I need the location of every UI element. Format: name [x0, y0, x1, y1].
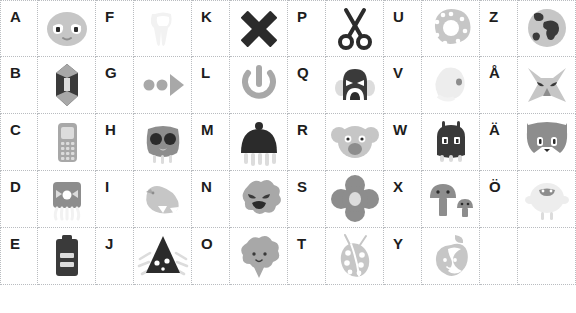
icon-cell-v	[422, 57, 480, 114]
letter-label: G	[96, 57, 117, 80]
beetle-icon	[424, 115, 478, 169]
letter-cell-p: P	[288, 0, 326, 57]
letter-cell-g: G	[96, 57, 134, 114]
letter-cell-n: N	[192, 171, 230, 228]
icon-cell-p	[326, 0, 384, 57]
letter-cell-r: R	[288, 114, 326, 171]
letter-cell-d: D	[0, 171, 38, 228]
letter-label: D	[1, 171, 21, 194]
icon-cell-h	[134, 114, 192, 171]
letter-cell-f: F	[96, 0, 134, 57]
letter-cell-l: L	[192, 57, 230, 114]
letter-label: F	[96, 1, 114, 24]
letter-label: C	[1, 114, 21, 137]
icon-cell-ä	[518, 114, 576, 171]
letter-cell-z: Z	[480, 0, 518, 57]
cross-x-icon	[232, 2, 286, 56]
cone-creature-icon	[136, 229, 190, 283]
icon-cell-t	[326, 228, 384, 285]
letter-label: P	[288, 1, 307, 24]
alphabet-chart: AFKPUZBGLQVÅCHMRWÄDINSXÖEJOTY	[0, 0, 576, 313]
letter-cell-s: S	[288, 171, 326, 228]
icon-cell-empty	[518, 228, 576, 285]
icon-cell-z	[518, 0, 576, 57]
alien-face-icon	[40, 2, 94, 56]
letter-label: M	[192, 114, 214, 137]
letter-label: Q	[288, 57, 309, 80]
letter-label: E	[1, 228, 20, 251]
cat-head-icon	[520, 115, 574, 169]
letter-label: A	[1, 1, 21, 24]
letter-label: R	[288, 114, 308, 137]
letter-label: X	[384, 171, 403, 194]
letter-cell-j: J	[96, 228, 134, 285]
battery-icon	[40, 229, 94, 283]
icon-cell-a	[38, 0, 96, 57]
icon-cell-k	[230, 0, 288, 57]
icon-cell-m	[230, 114, 288, 171]
icon-cell-r	[326, 114, 384, 171]
icon-cell-c	[38, 114, 96, 171]
letter-label: T	[288, 228, 306, 251]
letter-cell-q: Q	[288, 57, 326, 114]
scissors-icon	[328, 2, 382, 56]
letter-cell-e: E	[0, 228, 38, 285]
broccoli-icon	[232, 229, 286, 283]
donut-icon	[424, 2, 478, 56]
icon-cell-s	[326, 171, 384, 228]
letter-cell-ö: Ö	[480, 171, 518, 228]
icon-cell-l	[230, 57, 288, 114]
icon-cell-å	[518, 57, 576, 114]
alphabet-grid: AFKPUZBGLQVÅCHMRWÄDINSXÖEJOTY	[0, 0, 576, 313]
koala-face-icon	[328, 115, 382, 169]
mushrooms-icon	[424, 172, 478, 226]
letter-cell-ä: Ä	[480, 114, 518, 171]
jellyfish-icon	[232, 115, 286, 169]
icon-cell-b	[38, 57, 96, 114]
icon-cell-x	[422, 171, 480, 228]
cloud-face-icon	[232, 172, 286, 226]
letter-cell-t: T	[288, 228, 326, 285]
letter-label: W	[384, 114, 407, 137]
letter-cell-w: W	[384, 114, 422, 171]
sheep-icon	[520, 172, 574, 226]
mobile-phone-icon	[40, 115, 94, 169]
letter-cell-h: H	[96, 114, 134, 171]
flower-icon	[328, 172, 382, 226]
tooth-icon	[136, 2, 190, 56]
letter-label: B	[1, 57, 21, 80]
power-icon	[232, 58, 286, 112]
letter-cell-a: A	[0, 0, 38, 57]
icon-cell-e	[38, 228, 96, 285]
ladybug-icon	[328, 229, 382, 283]
letter-label: S	[288, 171, 307, 194]
letter-cell-u: U	[384, 0, 422, 57]
globe-icon	[520, 2, 574, 56]
letter-label: O	[192, 228, 213, 251]
squid-robot-icon	[40, 172, 94, 226]
fox-head-icon	[520, 58, 574, 112]
letter-cell-i: I	[96, 171, 134, 228]
icon-cell-q	[326, 57, 384, 114]
letter-cell-y: Y	[384, 228, 422, 285]
letter-label: Ä	[480, 114, 500, 137]
icon-cell-y	[422, 228, 480, 285]
play-dots-icon	[136, 58, 190, 112]
icon-cell-g	[134, 57, 192, 114]
letter-label: L	[192, 57, 210, 80]
icon-cell-w	[422, 114, 480, 171]
icon-cell-ö	[518, 171, 576, 228]
monster-face-icon	[328, 58, 382, 112]
letter-cell-empty	[480, 228, 518, 285]
letter-cell-x: X	[384, 171, 422, 228]
letter-label: J	[96, 228, 113, 251]
letter-cell-o: O	[192, 228, 230, 285]
icon-cell-j	[134, 228, 192, 285]
icon-cell-o	[230, 228, 288, 285]
ghost-bird-icon	[424, 58, 478, 112]
letter-label: V	[384, 57, 403, 80]
icon-cell-i	[134, 171, 192, 228]
letter-label: N	[192, 171, 212, 194]
letter-label: I	[96, 171, 109, 194]
letter-cell-k: K	[192, 0, 230, 57]
